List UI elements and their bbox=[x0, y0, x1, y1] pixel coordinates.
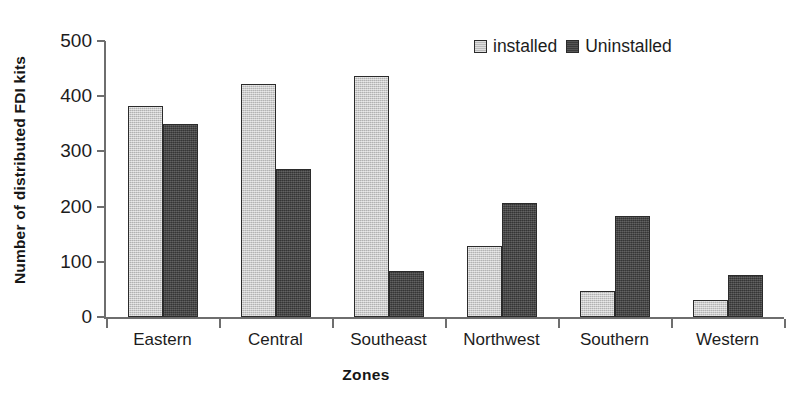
chart-legend: installedUninstalled bbox=[474, 36, 672, 57]
y-axis-tick-label: 400 bbox=[60, 85, 92, 107]
y-axis-title-text: Number of distributed FDI kits bbox=[11, 56, 29, 284]
y-axis-tick-labels: 0100200300400500 bbox=[40, 0, 98, 406]
bar-group bbox=[445, 41, 558, 317]
legend-label: Uninstalled bbox=[585, 36, 672, 57]
y-axis-tick-label: 100 bbox=[60, 251, 92, 273]
bar-uninstalled bbox=[615, 216, 650, 317]
bar-uninstalled bbox=[728, 275, 763, 318]
y-axis-tick-label: 300 bbox=[60, 140, 92, 162]
y-axis-tick bbox=[97, 206, 105, 208]
y-axis-title: Number of distributed FDI kits bbox=[0, 0, 40, 340]
y-axis-tick bbox=[97, 40, 105, 42]
bar-uninstalled bbox=[502, 203, 537, 317]
x-axis-tick bbox=[106, 319, 108, 328]
x-axis-tick-labels: EasternCentralSoutheastNorthwestSouthern… bbox=[106, 330, 784, 358]
x-axis-tick bbox=[784, 319, 786, 328]
x-axis-tick-label: Eastern bbox=[133, 330, 192, 350]
bar-group bbox=[671, 41, 784, 317]
y-axis-tick-label: 500 bbox=[60, 30, 92, 52]
bar-installed bbox=[241, 84, 276, 317]
bar-uninstalled bbox=[163, 124, 198, 317]
x-axis-tick-label: Western bbox=[696, 330, 759, 350]
bar-installed bbox=[467, 246, 502, 317]
y-axis-tick bbox=[97, 316, 105, 318]
legend-label: installed bbox=[493, 36, 557, 57]
bar-uninstalled bbox=[276, 169, 311, 317]
x-axis-tick-label: Southern bbox=[580, 330, 649, 350]
x-axis-tick bbox=[445, 319, 447, 328]
bar-group bbox=[332, 41, 445, 317]
x-axis-tick bbox=[671, 319, 673, 328]
y-axis-tick bbox=[97, 95, 105, 97]
y-axis-tick-label: 0 bbox=[81, 306, 92, 328]
bar-installed bbox=[580, 291, 615, 317]
x-axis-tick bbox=[332, 319, 334, 328]
x-axis-tick bbox=[558, 319, 560, 328]
bar-installed bbox=[128, 106, 163, 317]
x-axis-title: Zones bbox=[0, 366, 800, 384]
x-axis-tick bbox=[219, 319, 221, 328]
plot-area bbox=[106, 41, 784, 317]
bar-group bbox=[558, 41, 671, 317]
x-axis-tick-label: Southeast bbox=[350, 330, 427, 350]
y-axis-tick bbox=[97, 150, 105, 152]
y-axis-tick-label: 200 bbox=[60, 196, 92, 218]
x-axis-tick-label: Central bbox=[248, 330, 303, 350]
bar-group bbox=[106, 41, 219, 317]
x-axis-title-text: Zones bbox=[342, 366, 390, 383]
bar-uninstalled bbox=[389, 271, 424, 317]
x-axis-line bbox=[104, 317, 784, 319]
legend-item-installed[interactable]: installed bbox=[474, 36, 557, 57]
legend-item-uninstalled[interactable]: Uninstalled bbox=[566, 36, 672, 57]
x-axis-tick-label: Northwest bbox=[463, 330, 540, 350]
legend-swatch-uninstalled bbox=[566, 40, 579, 53]
bar-chart: Number of distributed FDI kits 010020030… bbox=[0, 0, 800, 406]
bar-installed bbox=[354, 76, 389, 317]
bar-installed bbox=[693, 300, 728, 317]
bar-group bbox=[219, 41, 332, 317]
legend-swatch-installed bbox=[474, 40, 487, 53]
y-axis-tick bbox=[97, 261, 105, 263]
